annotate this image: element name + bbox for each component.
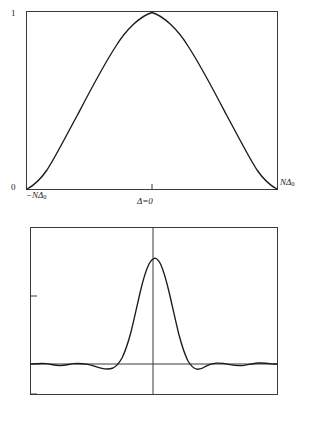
top-x-left-symbol: −NΔ — [26, 190, 43, 200]
bottom-curve — [31, 258, 277, 369]
top-x-left-label: −NΔ0 — [26, 191, 47, 201]
top-plot-frame — [27, 12, 278, 190]
bottom-plot-svg — [0, 213, 313, 426]
top-x-right-label: NΔ0 — [280, 178, 295, 188]
figure-container: 1 0 −NΔ0 NΔ0 Δ=0 1.5 −0.5 ν=0 ν — [0, 0, 313, 426]
top-x-center-label: Δ=0 — [137, 197, 153, 206]
top-plot-panel: 1 0 −NΔ0 NΔ0 Δ=0 — [0, 0, 313, 213]
bottom-plot-frame — [31, 228, 278, 395]
top-x-right-symbol: NΔ — [280, 177, 291, 187]
top-y-max-label: 1 — [11, 9, 16, 18]
top-x-left-subscript: 0 — [43, 193, 46, 200]
top-x-right-subscript: 0 — [291, 180, 294, 187]
top-y-min-label: 0 — [11, 183, 16, 192]
top-curve — [27, 13, 277, 190]
bottom-plot-panel: 1.5 −0.5 ν=0 ν — [0, 213, 313, 426]
top-plot-svg — [0, 0, 313, 213]
